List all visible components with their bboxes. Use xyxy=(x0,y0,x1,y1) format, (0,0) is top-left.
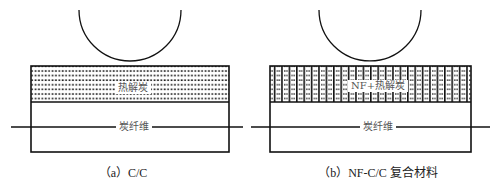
carbon-fiber-label-b: 炭纤维 xyxy=(360,121,396,133)
indenter-sphere-b xyxy=(319,10,421,61)
diagram-canvas xyxy=(0,0,498,185)
caption-b: （b）NF-C/C 复合材料 xyxy=(318,163,438,181)
caption-a: （a）C/C xyxy=(99,163,148,181)
carbon-fiber-label-a: 炭纤维 xyxy=(116,121,152,133)
nf-pyrocarbon-label-b: NF+热解炭 xyxy=(348,80,408,92)
indenter-sphere-a xyxy=(79,10,181,61)
pyrocarbon-label-a: 热解炭 xyxy=(115,82,151,94)
